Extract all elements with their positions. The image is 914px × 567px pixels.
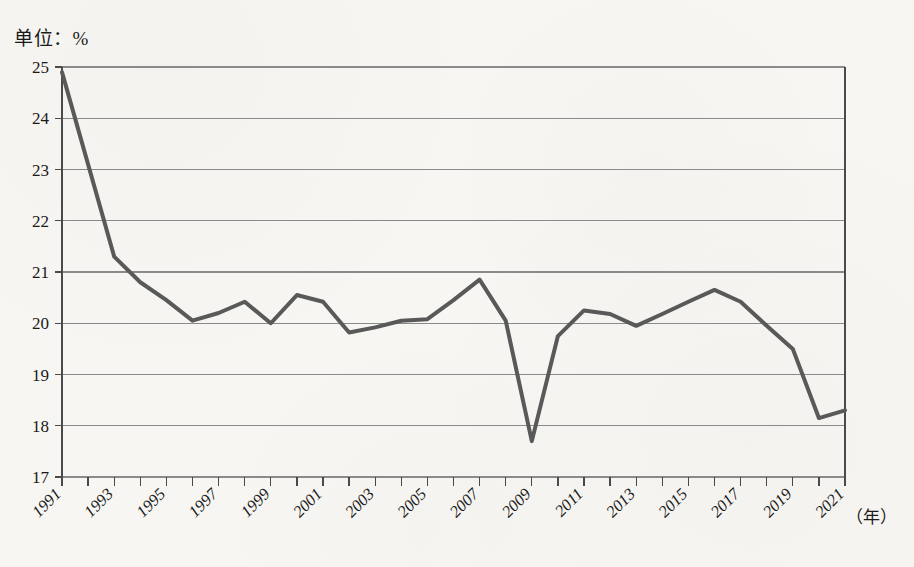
y-tick-label: 21 bbox=[32, 263, 49, 282]
x-axis-tick-labels: 1991199319951997199920012003200520072009… bbox=[28, 484, 848, 521]
x-tick-label: 1999 bbox=[237, 484, 274, 521]
x-tick-label: 2011 bbox=[551, 484, 587, 520]
x-tick-label: 1997 bbox=[185, 484, 222, 521]
y-tick-label: 22 bbox=[32, 212, 49, 231]
x-tick-label: 2019 bbox=[759, 484, 796, 521]
series-line bbox=[62, 72, 845, 441]
x-tick-label: 2009 bbox=[498, 484, 535, 521]
y-tick-label: 23 bbox=[32, 161, 49, 180]
x-tick-label: 2015 bbox=[654, 484, 691, 521]
data-series bbox=[62, 72, 845, 441]
x-tick-label: 2021 bbox=[811, 484, 848, 521]
y-axis-ticks: 171819202122232425 bbox=[32, 58, 62, 487]
x-axis-unit-label: （年） bbox=[846, 503, 897, 528]
x-tick-label: 2013 bbox=[602, 484, 639, 521]
x-tick-label: 1993 bbox=[80, 484, 117, 521]
y-tick-label: 17 bbox=[32, 468, 50, 487]
y-tick-label: 25 bbox=[32, 58, 49, 77]
x-tick-label: 2003 bbox=[341, 484, 378, 521]
x-tick-label: 2007 bbox=[446, 484, 483, 521]
y-tick-label: 18 bbox=[32, 417, 49, 436]
x-tick-label: 2001 bbox=[289, 484, 326, 521]
gridlines bbox=[62, 67, 845, 477]
y-tick-label: 20 bbox=[32, 314, 49, 333]
x-axis-ticks bbox=[62, 477, 845, 486]
line-chart: 171819202122232425 199119931995199719992… bbox=[0, 0, 914, 567]
x-tick-label: 2005 bbox=[393, 484, 430, 521]
x-tick-label: 2017 bbox=[707, 484, 744, 521]
y-tick-label: 24 bbox=[32, 109, 50, 128]
y-tick-label: 19 bbox=[32, 366, 49, 385]
x-tick-label: 1991 bbox=[28, 484, 65, 521]
x-tick-label: 1995 bbox=[132, 484, 169, 521]
